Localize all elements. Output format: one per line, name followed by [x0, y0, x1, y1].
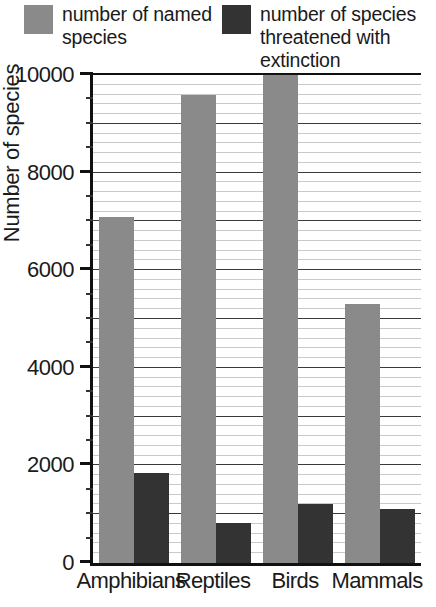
bar-reptiles-named — [181, 95, 216, 563]
y-axis-tick-label: 4000 — [0, 357, 74, 379]
y-axis-tick-minor — [86, 146, 93, 148]
gridline — [93, 123, 421, 124]
y-axis-tick-minor — [86, 219, 93, 221]
y-axis-tick-label: 10000 — [0, 64, 74, 86]
gridline — [93, 172, 421, 173]
gridline — [93, 94, 421, 95]
y-axis-tick-label: 8000 — [0, 162, 74, 184]
gridline — [93, 142, 421, 143]
y-axis-tick-label: 2000 — [0, 454, 74, 476]
gridline — [93, 259, 421, 260]
y-axis-tick-major — [80, 560, 93, 563]
bar-reptiles-threatened — [216, 523, 251, 563]
bar-birds-threatened — [298, 504, 333, 563]
y-axis-tick-major — [80, 170, 93, 173]
gridline — [93, 279, 421, 280]
y-axis-tick-minor — [86, 122, 93, 124]
gridline — [93, 191, 421, 192]
y-axis-tick-major — [80, 267, 93, 270]
y-axis-tick-minor — [86, 317, 93, 319]
bar-amphibians-named — [99, 217, 134, 563]
y-axis-tick-minor — [86, 195, 93, 197]
y-axis-tick-minor — [86, 244, 93, 246]
plot-area — [90, 75, 421, 566]
gridline — [93, 240, 421, 241]
bar-mammals-named — [345, 304, 380, 563]
y-axis-tick-minor — [86, 341, 93, 343]
gridline — [93, 250, 421, 251]
gridline — [93, 211, 421, 212]
y-axis-tick-minor — [86, 97, 93, 99]
gridline — [93, 298, 421, 299]
gridline — [93, 162, 421, 163]
gridline — [93, 73, 421, 75]
y-axis-tick-minor — [86, 488, 93, 490]
gridline — [93, 103, 421, 104]
bar-mammals-threatened — [380, 509, 415, 563]
bar-amphibians-threatened — [134, 473, 169, 563]
y-axis-tick-major — [80, 72, 93, 75]
gridline — [93, 84, 421, 85]
gridline — [93, 181, 421, 182]
y-axis-tick-minor — [86, 537, 93, 539]
gridline — [93, 152, 421, 153]
gridline — [93, 269, 421, 270]
x-axis-tick-label-mammals: Mammals — [307, 568, 436, 594]
y-axis-tick-minor — [86, 390, 93, 392]
gridline — [93, 220, 421, 221]
y-axis-tick-major — [80, 462, 93, 465]
y-axis-tick-minor — [86, 439, 93, 441]
gridline — [93, 289, 421, 290]
y-axis-tick-major — [80, 365, 93, 368]
bar-chart: Number of species 0200040006000800010000… — [0, 0, 436, 607]
bar-birds-named — [263, 75, 298, 563]
y-axis-tick-minor — [86, 415, 93, 417]
gridline — [93, 133, 421, 134]
gridline — [93, 230, 421, 231]
y-axis-tick-label: 6000 — [0, 259, 74, 281]
y-axis-tick-minor — [86, 512, 93, 514]
gridline — [93, 201, 421, 202]
y-axis-tick-minor — [86, 293, 93, 295]
gridline — [93, 113, 421, 114]
x-axis-labels: AmphibiansReptilesBirdsMammals — [0, 568, 436, 602]
